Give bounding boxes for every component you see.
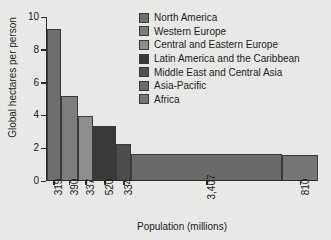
legend-item: Central and Eastern Europe: [139, 38, 300, 52]
legend-item-label: Middle East and Central Asia: [154, 67, 282, 78]
legend-item: North America: [139, 11, 300, 25]
legend-item-label: Asia-Pacific: [154, 80, 206, 91]
legend-swatch-icon: [139, 40, 149, 50]
x-axis-title: Population (millions): [46, 221, 318, 232]
legend-swatch-icon: [139, 81, 149, 91]
x-tick-label: 810: [300, 179, 311, 196]
bar: [93, 126, 116, 180]
legend-item: Africa: [139, 93, 300, 107]
x-tick-label: 3,407: [206, 174, 217, 199]
legend-item-label: Africa: [154, 94, 180, 105]
bar: [61, 96, 78, 180]
chart-container: Global hectares per person 0246810 31939…: [0, 0, 331, 240]
y-tick-label: 2: [33, 142, 39, 153]
legend-swatch-icon: [139, 94, 149, 104]
y-tick-label: 0: [33, 175, 39, 186]
x-tick-label: 337: [85, 179, 96, 196]
y-axis: 0246810: [0, 17, 46, 181]
legend-item: Middle East and Central Asia: [139, 65, 300, 79]
legend-item: Latin America and the Caribbean: [139, 52, 300, 66]
legend-swatch-icon: [139, 13, 149, 23]
x-tick-label: 520: [104, 179, 115, 196]
legend-swatch-icon: [139, 54, 149, 64]
bar: [282, 155, 318, 180]
legend-swatch-icon: [139, 67, 149, 77]
legend-item-label: North America: [154, 12, 217, 23]
legend-item-label: Western Europe: [154, 26, 226, 37]
legend-item: Western Europe: [139, 25, 300, 39]
y-tick-label: 8: [33, 44, 39, 55]
x-axis: 3193903375203343,407810: [46, 181, 318, 221]
x-tick-label: 390: [69, 179, 80, 196]
legend-item-label: Central and Eastern Europe: [154, 39, 278, 50]
bar: [78, 116, 93, 180]
x-tick-label: 319: [53, 179, 64, 196]
chart-legend: North AmericaWestern EuropeCentral and E…: [139, 11, 300, 106]
legend-item: Asia-Pacific: [139, 79, 300, 93]
y-tick-label: 10: [28, 11, 39, 22]
x-tick-label: 334: [123, 179, 134, 196]
y-tick-label: 6: [33, 77, 39, 88]
bar: [47, 29, 61, 180]
bar: [116, 144, 131, 180]
y-tick-label: 4: [33, 109, 39, 120]
legend-swatch-icon: [139, 26, 149, 36]
legend-item-label: Latin America and the Caribbean: [154, 53, 300, 64]
